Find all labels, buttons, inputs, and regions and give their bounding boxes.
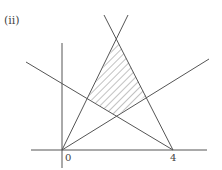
figure-label: (ii) <box>4 14 20 27</box>
diagram-canvas <box>0 0 222 170</box>
tick-label-0: 0 <box>65 152 71 163</box>
tick-label-4: 4 <box>170 152 176 163</box>
